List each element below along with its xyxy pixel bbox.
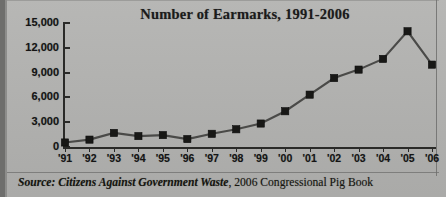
data-point-00 (282, 108, 289, 115)
source-organization: Citizens Against Government Waste (55, 176, 228, 189)
source-publication: , 2006 Congressional Pig Book (228, 176, 373, 189)
data-point-01 (306, 91, 313, 98)
series-markers (61, 28, 435, 146)
data-point-02 (331, 74, 338, 81)
data-point-91 (61, 139, 68, 146)
data-point-03 (355, 66, 362, 73)
data-point-06 (428, 61, 435, 68)
series-line-earmarks (65, 31, 432, 142)
chart-plot-area: Number of Earmarks, 1991-2006 03,0006,00… (0, 0, 446, 172)
chart-page: Number of Earmarks, 1991-2006 03,0006,00… (0, 0, 446, 197)
data-point-97 (208, 130, 215, 137)
data-point-99 (257, 120, 264, 127)
source-caption: Source: Citizens Against Government Wast… (18, 176, 438, 189)
data-point-96 (184, 135, 191, 142)
data-point-93 (110, 129, 117, 136)
data-point-95 (159, 132, 166, 139)
data-point-04 (379, 55, 386, 62)
data-point-98 (233, 126, 240, 133)
data-point-92 (86, 136, 93, 143)
data-point-05 (404, 28, 411, 35)
source-lead: Source: (18, 176, 55, 189)
data-point-94 (135, 133, 142, 140)
source-separator-rule (7, 172, 439, 173)
series-svg (0, 0, 446, 172)
